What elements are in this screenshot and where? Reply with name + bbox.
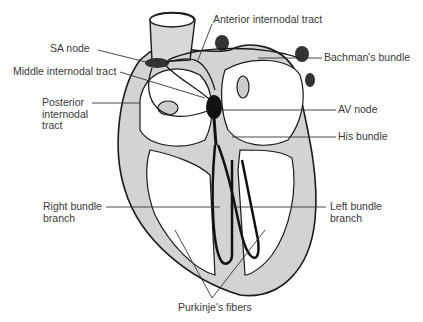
his-bundle-path: [214, 118, 216, 145]
vessel-stub-2: [295, 46, 309, 62]
label-purkinjes-fibers: Purkinje's fibers: [178, 302, 252, 314]
left-atrium: [222, 60, 304, 145]
label-middle-internodal-tract: Middle internodal tract: [13, 66, 116, 78]
label-anterior-internodal-tract: Anterior internodal tract: [213, 14, 322, 26]
vessel-stub-3: [305, 73, 315, 87]
valve-right: [158, 101, 178, 115]
valve-left: [237, 76, 249, 98]
av-node: [206, 95, 222, 119]
conduction-system-diagram: Anterior internodal tract SA node Bachma…: [0, 0, 423, 322]
label-posterior-internodal-tract: Posterior internodal tract: [42, 97, 88, 132]
label-bachmans-bundle: Bachman's bundle: [324, 52, 410, 64]
label-left-bundle-branch: Left bundle branch: [330, 201, 382, 224]
label-av-node: AV node: [338, 104, 378, 116]
label-right-bundle-branch: Right bundle branch: [43, 201, 102, 224]
aorta-opening: [150, 13, 194, 27]
label-sa-node: SA node: [50, 43, 90, 55]
label-his-bundle: His bundle: [338, 131, 388, 143]
